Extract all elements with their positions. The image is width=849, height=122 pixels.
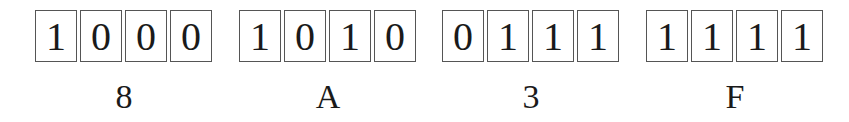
bit-box: 0 — [374, 10, 416, 62]
bit-box: 1 — [781, 10, 823, 62]
bit-box: 1 — [646, 10, 688, 62]
bit-box: 1 — [691, 10, 733, 62]
bit-box: 1 — [239, 10, 281, 62]
bit-box: 1 — [736, 10, 778, 62]
bit-box: 0 — [284, 10, 326, 62]
hex-label: 3 — [442, 80, 620, 114]
bit-box: 0 — [125, 10, 167, 62]
bit-boxes: 0 1 1 1 — [442, 10, 620, 62]
hex-label: F — [646, 80, 824, 114]
bit-box: 1 — [577, 10, 619, 62]
bit-box: 1 — [487, 10, 529, 62]
bit-box: 1 — [329, 10, 371, 62]
nibble-group-4: 1 1 1 1 F — [646, 10, 824, 120]
bit-box: 0 — [170, 10, 212, 62]
hex-label: A — [239, 80, 417, 114]
bit-box: 0 — [442, 10, 484, 62]
bit-boxes: 1 1 1 1 — [646, 10, 824, 62]
bit-box: 1 — [35, 10, 77, 62]
nibble-group-1: 1 0 0 0 8 — [35, 10, 213, 120]
nibble-group-3: 0 1 1 1 3 — [442, 10, 620, 120]
hex-label: 8 — [35, 80, 213, 114]
bit-box: 1 — [532, 10, 574, 62]
nibble-group-2: 1 0 1 0 A — [239, 10, 417, 120]
bit-boxes: 1 0 1 0 — [239, 10, 417, 62]
bit-box: 0 — [80, 10, 122, 62]
bit-boxes: 1 0 0 0 — [35, 10, 213, 62]
